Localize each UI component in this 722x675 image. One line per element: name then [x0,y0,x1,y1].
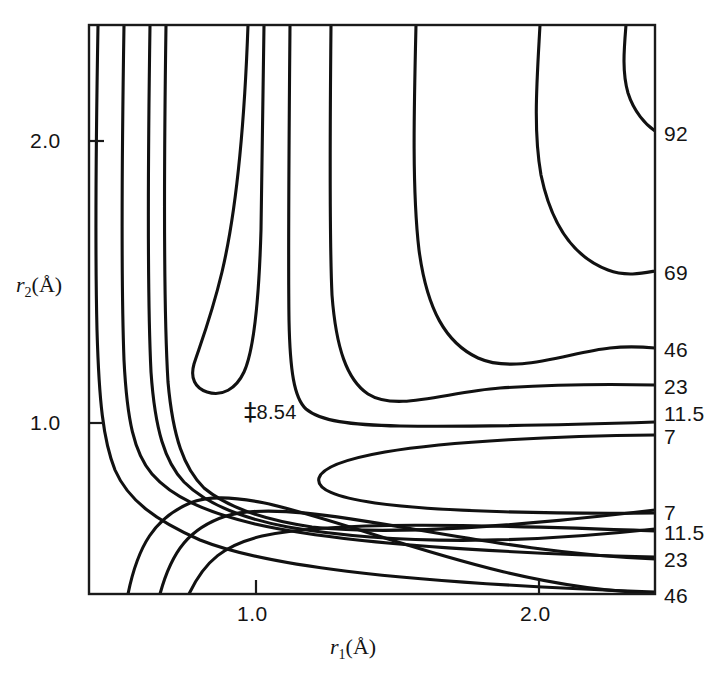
contour-line-92-upper [624,25,655,131]
plot-frame [89,25,655,594]
contour-line-23-left [122,25,655,557]
contour-label-7-upper: 7 [664,425,676,449]
contour-line-23-upper [330,25,655,401]
contour-line-7-lower-horn [319,435,655,513]
x-tick-label-2.0: 2.0 [520,602,551,626]
y-axis-subscript: 2 [25,285,32,300]
x-axis-unit: (Å) [346,634,377,659]
contour-line-7-left [164,25,655,530]
double-dagger-icon: ‡ [244,397,257,426]
contour-line-11p5-left [148,25,655,540]
x-axis-title: r1(Å) [330,634,376,663]
contour-label-23-upper: 23 [664,375,688,399]
y-tick-label-2.0: 2.0 [30,129,61,153]
contour-label-11p5-upper: 11.5 [664,402,705,426]
contour-line-well-u [193,25,264,393]
x-tick-label-1.0: 1.0 [237,602,268,626]
plot-canvas [0,0,722,675]
contour-label-23-lower: 23 [664,548,688,572]
saddle-point-annotation: ‡8.54 [244,401,297,430]
y-tick-label-1.0: 1.0 [30,411,61,435]
contour-line-46-upper [414,25,655,364]
y-axis-title: r2(Å) [16,272,62,301]
y-axis-symbol: r [16,272,25,297]
contour-label-46-lower: 46 [664,584,688,608]
contour-label-46-upper: 46 [664,338,688,362]
x-axis-subscript: 1 [339,647,346,662]
saddle-point-energy-label: 8.54 [257,401,297,423]
contour-label-69-upper: 69 [664,261,688,285]
contour-label-92-upper: 92 [664,122,688,146]
contour-curve-group [96,25,655,594]
contour-line-11p5-upper [289,25,655,426]
x-axis-symbol: r [330,634,339,659]
contour-plot-figure: 2.0 1.0 1.0 2.0 r2(Å) r1(Å) ‡8.54 92 69 … [0,0,722,675]
contour-label-11p5-lower: 11.5 [664,521,705,545]
y-axis-unit: (Å) [32,272,63,297]
contour-line-69-upper [536,25,655,274]
